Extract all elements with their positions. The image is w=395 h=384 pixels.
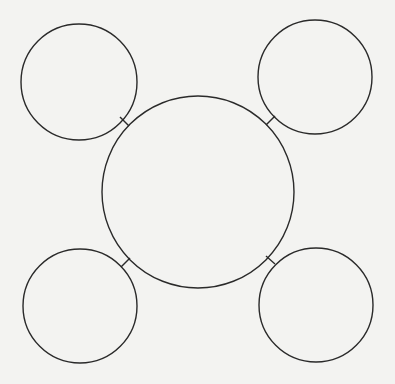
connector-bottom-right	[266, 256, 275, 264]
web-organizer-diagram	[0, 0, 395, 384]
satellite-circle-bottom-left[interactable]	[23, 249, 137, 363]
center-circle[interactable]	[102, 96, 294, 288]
satellite-circle-top-right[interactable]	[258, 20, 372, 134]
satellite-circles	[21, 20, 373, 363]
satellite-circle-top-left[interactable]	[21, 24, 137, 140]
connector-top-right	[266, 116, 275, 125]
satellite-circle-bottom-right[interactable]	[259, 248, 373, 362]
diagram-canvas	[0, 0, 395, 384]
connector-lines	[120, 116, 275, 267]
